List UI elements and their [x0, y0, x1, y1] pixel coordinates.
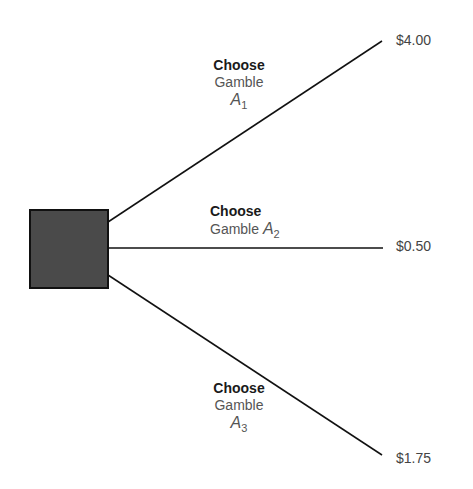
branch-3-action: Choose — [204, 380, 274, 397]
branch-2-gamble: Gamble A2 — [210, 220, 280, 243]
branch-3-variable: A3 — [204, 414, 274, 437]
branch-3-gamble: Gamble — [204, 397, 274, 414]
branch-label-2: Choose Gamble A2 — [210, 203, 280, 243]
payoff-2: $0.50 — [396, 238, 431, 254]
decision-node — [30, 210, 108, 288]
branch-label-3: Choose Gamble A3 — [204, 380, 274, 437]
payoff-1: $4.00 — [396, 32, 431, 48]
payoff-3: $1.75 — [396, 450, 431, 466]
branch-1-gamble: Gamble — [204, 74, 274, 91]
branch-label-1: Choose Gamble A1 — [204, 57, 274, 114]
branch-1-variable: A1 — [204, 91, 274, 114]
branch-2-action: Choose — [210, 203, 280, 220]
branch-1-action: Choose — [204, 57, 274, 74]
